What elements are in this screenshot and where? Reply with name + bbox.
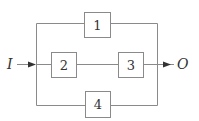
input-label: I — [6, 56, 13, 72]
block-4-label: 4 — [94, 97, 102, 112]
block-1: 1 — [85, 13, 111, 38]
output-label: O — [177, 56, 189, 72]
output-arrowhead-icon — [163, 62, 171, 68]
block-2-label: 2 — [60, 58, 68, 73]
block-3-label: 3 — [127, 58, 135, 73]
block-1-label: 1 — [93, 18, 101, 33]
block-2: 2 — [52, 53, 77, 78]
block-3: 3 — [119, 53, 144, 78]
block-diagram: I O 1 2 3 4 — [0, 0, 199, 121]
block-4: 4 — [86, 92, 111, 118]
input-arrowhead-icon — [28, 62, 36, 68]
